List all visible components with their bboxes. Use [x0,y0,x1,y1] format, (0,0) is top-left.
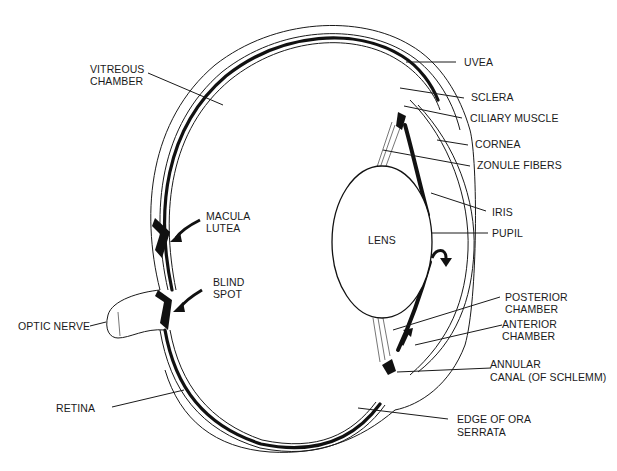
label-blind-spot-2: SPOT [213,288,242,300]
label-ciliary-muscle: CILIARY MUSCLE [470,112,559,124]
label-vitreous-1: VITREOUS [90,63,144,75]
label-annular-1: ANNULAR [490,358,541,370]
label-anterior-2: CHAMBER [502,330,556,342]
label-optic-nerve: OPTIC NERVE [18,320,90,332]
label-posterior-2: CHAMBER [505,303,559,315]
label-zonule-fibers: ZONULE FIBERS [477,159,562,171]
label-posterior-1: POSTERIOR [505,291,568,303]
label-pupil: PUPIL [492,227,523,239]
optic-nerve [107,290,165,338]
label-ora-1: EDGE OF ORA [457,413,531,425]
label-annular-2: CANAL (OF SCHLEMM) [490,371,606,383]
blind-spot-shape [155,290,172,330]
label-macula-2: LUTEA [206,222,240,234]
label-sclera: SCLERA [471,91,514,103]
label-blind-spot-1: BLIND [213,276,245,288]
label-anterior-1: ANTERIOR [502,318,557,330]
ciliary-body-lower [382,359,396,375]
label-vitreous-2: CHAMBER [90,75,144,87]
label-uvea: UVEA [464,56,493,68]
eye-diagram-svg: LENS [0,0,617,471]
label-retina: RETINA [56,402,95,414]
lens-label: LENS [368,234,396,246]
labels: VITREOUS CHAMBER UVEA SCLERA CILIARY MUS… [18,56,606,438]
label-cornea: CORNEA [475,138,521,150]
lens: LENS [332,166,432,318]
label-ora-2: SERRATA [457,426,506,438]
label-iris: IRIS [492,206,513,218]
eye-diagram: LENS [0,0,617,471]
label-macula-1: MACULA [206,210,250,222]
pointer-arrows [170,220,202,312]
